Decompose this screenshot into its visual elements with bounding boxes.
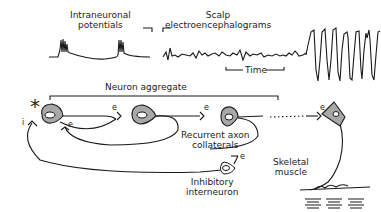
eeg-trace xyxy=(163,48,306,60)
neuron-aggregate-label: Neuron aggregate xyxy=(105,82,187,92)
scalp-eeg-label: Scalp electroencephalograms xyxy=(165,10,271,30)
label-line: electroencephalograms xyxy=(165,20,271,30)
recurrent-axon-label: Recurrent axon collaterals xyxy=(181,130,250,150)
excitatory-mark: e xyxy=(68,120,73,130)
label-line: potentials xyxy=(70,20,131,30)
intraneuronal-trace xyxy=(49,39,150,59)
label-line: interneuron xyxy=(186,187,238,197)
intraneuronal-label: Intraneuronal potentials xyxy=(70,10,131,30)
label-line: Inhibitory xyxy=(186,177,238,187)
inhibitory-synapse-mark: i xyxy=(22,118,24,128)
label-line: Intraneuronal xyxy=(70,10,131,20)
label-line: collaterals xyxy=(181,140,250,150)
excitatory-mark: e xyxy=(320,103,325,113)
inhibitory-interneuron-label: Inhibitory interneuron xyxy=(186,177,238,197)
label-line: Skeletal xyxy=(273,157,309,167)
asterisk-marker: * xyxy=(30,96,40,116)
excitatory-mark: e xyxy=(204,103,209,113)
label-line: muscle xyxy=(273,167,309,177)
excitatory-mark: e xyxy=(112,103,117,113)
label-line: Scalp xyxy=(165,10,271,20)
time-label: Time xyxy=(245,65,267,75)
excitatory-mark: e xyxy=(240,152,245,162)
skeletal-muscle-label: Skeletal muscle xyxy=(273,157,309,177)
label-line: Recurrent axon xyxy=(181,130,250,140)
seizure-trace xyxy=(306,28,380,81)
